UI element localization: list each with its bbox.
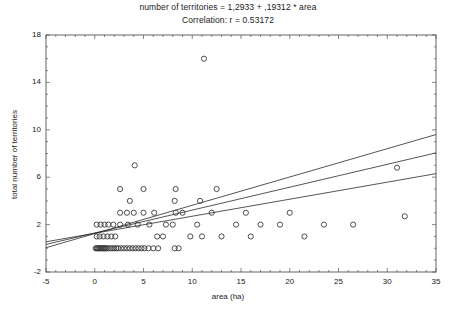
data-point [173, 210, 178, 215]
data-point [402, 214, 407, 219]
data-point [234, 222, 239, 227]
data-point [321, 222, 326, 227]
x-tick-label: 35 [421, 277, 451, 286]
data-point [195, 222, 200, 227]
fit-line [46, 153, 436, 245]
plot-canvas [0, 0, 456, 314]
x-tick-label: -5 [31, 277, 61, 286]
data-point [118, 210, 123, 215]
data-point [219, 234, 224, 239]
confidence-line [46, 174, 436, 242]
y-tick-label: -2 [17, 267, 41, 276]
data-point [163, 222, 168, 227]
data-point [156, 246, 161, 251]
data-point [106, 222, 111, 227]
data-point [152, 210, 157, 215]
data-point [141, 186, 146, 191]
data-point [287, 210, 292, 215]
data-point [277, 222, 282, 227]
chart-title-equation: number of territories = 1,2933 + ,19312 … [0, 2, 456, 12]
y-tick-label: 2 [17, 220, 41, 229]
data-point [248, 234, 253, 239]
data-point [151, 246, 156, 251]
x-tick-label: 15 [226, 277, 256, 286]
data-point [170, 222, 175, 227]
chart-subtitle-correlation: Correlation: r = 0.53172 [0, 15, 456, 25]
data-point [394, 165, 399, 170]
data-point [201, 56, 206, 61]
data-point [173, 186, 178, 191]
x-tick-label: 5 [129, 277, 159, 286]
x-axis-title: area (ha) [0, 292, 456, 301]
data-point [199, 234, 204, 239]
x-tick-label: 30 [372, 277, 402, 286]
data-point [172, 198, 177, 203]
data-point [351, 222, 356, 227]
data-points [93, 56, 407, 251]
data-point [132, 163, 137, 168]
data-point [155, 234, 160, 239]
data-point [124, 210, 129, 215]
x-tick-label: 0 [80, 277, 110, 286]
data-point [243, 210, 248, 215]
data-point [160, 234, 165, 239]
data-point [176, 246, 181, 251]
x-tick-label: 10 [177, 277, 207, 286]
data-point [113, 234, 118, 239]
y-tick-label: 10 [17, 125, 41, 134]
y-tick-label: 6 [17, 172, 41, 181]
data-point [127, 198, 132, 203]
y-tick-label: 18 [17, 30, 41, 39]
data-point [214, 186, 219, 191]
x-tick-label: 25 [324, 277, 354, 286]
data-point [188, 234, 193, 239]
data-point [118, 186, 123, 191]
data-point [147, 222, 152, 227]
scatter-plot-figure: number of territories = 1,2933 + ,19312 … [0, 0, 456, 314]
data-point [131, 210, 136, 215]
y-axis-title: total number of territories [10, 65, 19, 245]
data-point [146, 246, 151, 251]
x-tick-label: 20 [275, 277, 305, 286]
data-point [302, 234, 307, 239]
regression-lines [46, 135, 436, 248]
data-point [258, 222, 263, 227]
data-point [141, 210, 146, 215]
y-tick-label: 14 [17, 77, 41, 86]
data-point [111, 222, 116, 227]
